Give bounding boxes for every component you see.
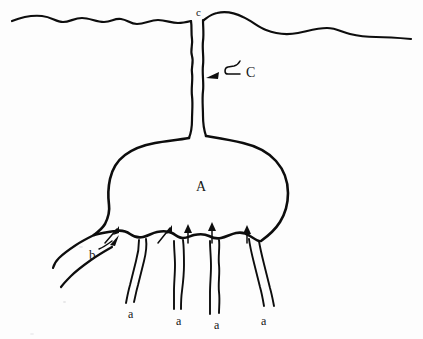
bulb-outline-left: [94, 138, 189, 235]
root-4-left-edge: [249, 239, 264, 306]
label-neck-channel: C: [246, 66, 255, 80]
label-thick-root: b: [89, 248, 96, 261]
bulb-base-arrow-3-head: [184, 224, 192, 233]
scan-speck: [63, 301, 66, 303]
figure-canvas: A c C b a a a a: [0, 0, 423, 339]
root-2-right-edge: [181, 240, 184, 309]
label-root-3: a: [214, 319, 219, 331]
neck-callout-arrowhead: [206, 72, 219, 79]
label-root-4: a: [261, 315, 266, 327]
neck-callout-leader: [225, 61, 240, 74]
neck-wall-left: [189, 21, 193, 138]
root-3-left-edge: [210, 241, 211, 314]
label-root-1: a: [128, 308, 133, 320]
root-1-left-edge: [126, 240, 139, 303]
root-3-right-edge: [219, 240, 220, 313]
ground-line-left: [12, 16, 191, 24]
bulb-base-arrow-4-head: [208, 222, 216, 231]
label-neck-opening: c: [196, 7, 201, 18]
root-2-left-edge: [174, 241, 175, 309]
scan-speck: [30, 333, 34, 335]
diagram-linework: [0, 0, 423, 339]
label-root-2: a: [176, 315, 181, 327]
thick-root-lower-edge: [61, 247, 112, 287]
neck-wall-right: [203, 20, 206, 136]
scan-speck: [79, 246, 83, 248]
bulb-base-arrow-5-head: [243, 225, 251, 234]
ground-line-right: [204, 12, 411, 39]
label-bulb-body: A: [196, 180, 206, 194]
root-1-right-edge: [134, 239, 146, 302]
